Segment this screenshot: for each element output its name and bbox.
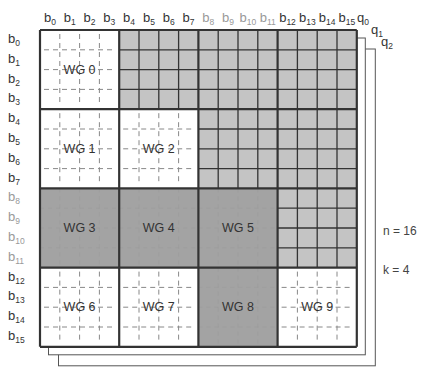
row-label: b5: [8, 130, 20, 147]
column-label: b3: [103, 10, 115, 27]
column-label: b4: [123, 10, 135, 27]
block-wg-2: WG 2: [119, 109, 198, 188]
row-label: b8: [8, 189, 20, 206]
column-labels: b0b1b2b3b4b5b6b7b8b9b10b11b12b13b14b15: [44, 10, 356, 27]
block-wg-4: WG 4: [119, 188, 198, 267]
wg-label: WG 1: [64, 142, 96, 156]
column-label: b10: [240, 10, 257, 27]
n-label: n = 16: [383, 224, 417, 238]
block-upper: [198, 30, 277, 109]
column-label: b1: [64, 10, 76, 27]
wg-label: WG 4: [143, 221, 175, 235]
column-label: b15: [339, 10, 356, 27]
block-wg-9: WG 9: [278, 268, 357, 347]
block-upper: [278, 30, 357, 109]
wg-label: WG 6: [64, 300, 96, 314]
column-label: b11: [260, 10, 276, 27]
row-label: b12: [8, 269, 25, 286]
column-label: b7: [183, 10, 195, 27]
block-upper: [278, 109, 357, 188]
row-label: b9: [8, 209, 20, 226]
block-wg-5: WG 5: [198, 188, 277, 267]
column-label: b6: [163, 10, 175, 27]
wg-label: WG 5: [222, 221, 254, 235]
column-label: b9: [222, 10, 234, 27]
row-label: b13: [8, 288, 25, 305]
wg-label: WG 8: [222, 300, 254, 314]
column-label: b8: [202, 10, 214, 27]
column-label: b5: [143, 10, 155, 27]
block-upper: [198, 109, 277, 188]
block-wg-1: WG 1: [40, 109, 119, 188]
wg-label: WG 9: [301, 300, 333, 314]
row-label: b1: [8, 51, 20, 68]
block-grid: WG 0WG 1WG 2WG 3WG 4WG 5WG 6WG 7WG 8WG 9: [40, 30, 357, 347]
wg-label: WG 2: [143, 142, 175, 156]
row-label: b14: [8, 308, 25, 325]
column-label: b13: [299, 10, 316, 27]
column-label: b0: [44, 10, 56, 27]
row-label: b2: [8, 71, 20, 88]
block-wg-6: WG 6: [40, 268, 119, 347]
wg-label: WG 3: [64, 221, 96, 235]
row-label: b7: [8, 170, 20, 187]
block-wg-8: WG 8: [198, 268, 277, 347]
row-label: b10: [8, 229, 25, 246]
wg-label: WG 0: [64, 63, 96, 77]
layer-label-q0: q0: [357, 10, 369, 27]
block-wg-0: WG 0: [40, 30, 119, 109]
row-label: b0: [8, 31, 20, 48]
row-label: b11: [8, 249, 24, 266]
row-label: b15: [8, 328, 25, 345]
row-label: b3: [8, 90, 20, 107]
row-label: b4: [8, 110, 20, 127]
k-label: k = 4: [383, 263, 410, 277]
row-label: b6: [8, 150, 20, 167]
block-upper: [278, 188, 357, 267]
wg-label: WG 7: [143, 300, 175, 314]
column-label: b2: [84, 10, 96, 27]
row-labels: b0b1b2b3b4b5b6b7b8b9b10b11b12b13b14b15: [8, 31, 25, 345]
block-wg-3: WG 3: [40, 188, 119, 267]
layer-label-q2: q2: [381, 34, 393, 51]
block-matrix-diagram: WG 0WG 1WG 2WG 3WG 4WG 5WG 6WG 7WG 8WG 9…: [0, 0, 430, 387]
column-label: b12: [279, 10, 296, 27]
block-upper: [119, 30, 198, 109]
column-label: b14: [319, 10, 336, 27]
block-wg-7: WG 7: [119, 268, 198, 347]
